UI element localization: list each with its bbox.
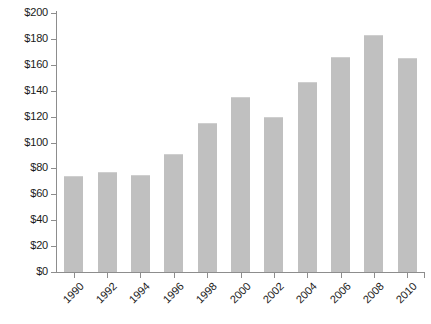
y-axis-tick-label: $40 <box>0 214 48 225</box>
x-axis-tick-label-text: 2010 <box>394 281 419 306</box>
x-axis-tick-label-text: 1994 <box>127 281 152 306</box>
x-axis-tick <box>241 273 242 278</box>
x-axis-tick <box>74 273 75 278</box>
y-axis-tick-label: $0 <box>0 266 48 277</box>
bar <box>398 58 417 272</box>
x-axis-tick <box>274 273 275 278</box>
bar <box>64 176 83 272</box>
y-axis-tick-label: $100 <box>0 137 48 148</box>
x-axis-tick <box>307 273 308 278</box>
y-axis-tick-label: $120 <box>0 111 48 122</box>
x-axis-tick <box>407 273 408 278</box>
x-axis-tick <box>174 273 175 278</box>
bar <box>331 57 350 272</box>
x-axis-tick <box>140 273 141 278</box>
x-axis-tick-label-text: 2006 <box>328 281 353 306</box>
x-axis-tick-label-text: 2000 <box>228 281 253 306</box>
y-axis-tick-label-text: $180 <box>0 33 48 44</box>
bar <box>298 82 317 272</box>
bar <box>164 154 183 272</box>
bar <box>264 117 283 272</box>
x-axis-tick-label-text: 1996 <box>161 281 186 306</box>
x-axis-tick <box>341 273 342 278</box>
bar <box>364 35 383 272</box>
bar <box>131 175 150 272</box>
bar <box>231 97 250 272</box>
bar-chart: $0$20$40$60$80$100$120$140$160$180$200 1… <box>0 0 431 324</box>
y-axis-tick-label-text: $160 <box>0 59 48 70</box>
x-axis-tick <box>107 273 108 278</box>
y-axis-tick <box>51 272 57 273</box>
x-axis-tick-label-text: 2008 <box>361 281 386 306</box>
y-axis-tick-label-text: $0 <box>0 266 48 277</box>
y-axis-tick-label-text: $60 <box>0 188 48 199</box>
y-axis-tick-label-text: $200 <box>0 7 48 18</box>
x-axis-tick-label-text: 1998 <box>194 281 219 306</box>
y-axis-tick-label-text: $20 <box>0 240 48 251</box>
x-axis-tick-label-text: 1990 <box>61 281 86 306</box>
x-axis-tick-label-text: 2004 <box>294 281 319 306</box>
y-axis-tick-label-text: $100 <box>0 137 48 148</box>
y-axis-tick-label-text: $40 <box>0 214 48 225</box>
y-axis-tick-label: $80 <box>0 162 48 173</box>
bars-container <box>57 13 424 272</box>
y-axis-tick-label: $200 <box>0 7 48 18</box>
y-axis-tick-label: $140 <box>0 85 48 96</box>
y-axis-tick-label: $60 <box>0 188 48 199</box>
x-axis-tick <box>207 273 208 278</box>
x-axis-tick <box>374 273 375 278</box>
bar <box>198 123 217 272</box>
y-axis-tick-label-text: $120 <box>0 111 48 122</box>
x-axis-tick-label-text: 1992 <box>94 281 119 306</box>
y-axis-tick-label: $180 <box>0 33 48 44</box>
bar <box>98 172 117 272</box>
y-axis-tick-label-text: $140 <box>0 85 48 96</box>
y-axis-tick-label-text: $80 <box>0 162 48 173</box>
y-axis-tick-label: $160 <box>0 59 48 70</box>
y-axis-tick-label: $20 <box>0 240 48 251</box>
x-axis-tick <box>424 273 425 278</box>
x-axis-tick-label-text: 2002 <box>261 281 286 306</box>
